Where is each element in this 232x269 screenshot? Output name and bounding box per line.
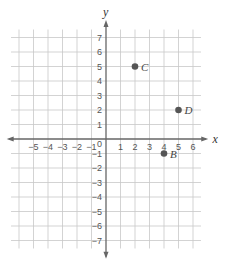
x-tick-label: 2 bbox=[132, 142, 137, 152]
y-tick-label: 4 bbox=[97, 76, 102, 86]
x-axis-label: x bbox=[212, 132, 219, 146]
x-tick-label: 3 bbox=[147, 142, 152, 152]
x-axis-arrow-right-icon bbox=[201, 137, 208, 142]
x-tick-label: −2 bbox=[72, 142, 82, 152]
y-tick-label: −3 bbox=[92, 178, 102, 188]
x-tick-label: 1 bbox=[118, 142, 123, 152]
x-tick-label: −5 bbox=[28, 142, 38, 152]
x-tick-label: 6 bbox=[190, 142, 195, 152]
point-C bbox=[132, 63, 139, 70]
y-tick-label: −7 bbox=[92, 236, 102, 246]
axes: xy bbox=[7, 5, 219, 259]
y-tick-label: 1 bbox=[97, 120, 102, 130]
coordinate-plane: xy −5−4−3−2−11234567654321−1−2−3−4−5−6−7… bbox=[0, 0, 232, 269]
x-tick-label: −3 bbox=[57, 142, 67, 152]
y-tick-label: 5 bbox=[97, 62, 102, 72]
y-tick-label: −1 bbox=[92, 149, 102, 159]
y-tick-label: 3 bbox=[97, 91, 102, 101]
y-axis-label: y bbox=[102, 5, 109, 19]
y-tick-label: 7 bbox=[97, 33, 102, 43]
point-label-D: D bbox=[184, 104, 193, 116]
origin-label: 0 bbox=[97, 139, 102, 149]
y-tick-label: −6 bbox=[92, 221, 102, 231]
y-axis-arrow-up-icon bbox=[104, 20, 109, 27]
y-tick-label: −2 bbox=[92, 163, 102, 173]
y-tick-label: 6 bbox=[97, 47, 102, 57]
x-tick-label: −4 bbox=[43, 142, 53, 152]
x-tick-label: 5 bbox=[176, 142, 181, 152]
y-axis-arrow-down-icon bbox=[104, 252, 109, 259]
point-label-B: B bbox=[170, 148, 177, 160]
y-tick-label: 2 bbox=[97, 105, 102, 115]
y-tick-label: −5 bbox=[92, 207, 102, 217]
point-D bbox=[175, 107, 182, 114]
x-axis-arrow-left-icon bbox=[7, 137, 14, 142]
point-label-C: C bbox=[141, 61, 149, 73]
point-B bbox=[161, 150, 168, 157]
y-tick-label: −4 bbox=[92, 192, 102, 202]
